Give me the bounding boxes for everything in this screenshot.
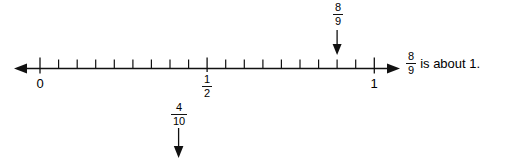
axis-label-one-half: 1 2 <box>194 74 220 99</box>
fraction-denominator: 2 <box>202 88 212 99</box>
statement-text: 8 9 is about 1. <box>406 51 480 76</box>
axis-label-zero: 0 <box>31 76 49 91</box>
axis-label-one: 1 <box>365 76 383 91</box>
pointer-arrow-bottom <box>174 128 184 158</box>
annotation-fraction-eight-ninths: 8 9 <box>322 2 354 27</box>
pointer-arrow-top <box>333 30 342 55</box>
fraction-numerator: 1 <box>202 74 212 85</box>
tick-group-major <box>40 58 374 74</box>
figure-canvas: 8 9 4 10 0 1 2 1 8 9 is about 1. <box>0 0 520 160</box>
fraction-1-2: 1 2 <box>202 74 212 99</box>
fraction-4-10: 4 10 <box>171 102 187 127</box>
pointer-arrow-top-head <box>333 44 342 55</box>
fraction-denominator: 9 <box>333 16 343 27</box>
number-line-graphic <box>0 0 520 160</box>
axis-left-arrowhead <box>14 63 27 73</box>
statement-sentence: is about 1. <box>420 57 480 70</box>
pointer-arrow-bottom-head <box>174 146 184 158</box>
fraction-numerator: 4 <box>171 102 187 113</box>
fraction-8-9: 8 9 <box>333 2 343 27</box>
fraction-denominator: 10 <box>171 116 187 127</box>
axis-right-arrowhead <box>387 63 400 73</box>
fraction-denominator: 9 <box>406 65 416 76</box>
annotation-fraction-four-tenths: 4 10 <box>162 102 196 127</box>
fraction-numerator: 8 <box>333 2 343 13</box>
fraction-8-9-statement: 8 9 <box>406 51 416 76</box>
fraction-numerator: 8 <box>406 51 416 62</box>
